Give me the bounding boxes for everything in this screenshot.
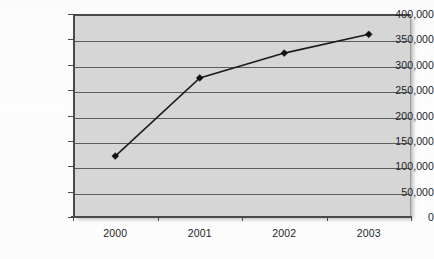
data-point-marker (365, 31, 372, 38)
data-series-group (73, 14, 411, 217)
x-axis-tick-label: 2003 (357, 227, 381, 239)
x-axis-tick-label: 2002 (272, 227, 296, 239)
line-chart-figure: 050,000100,000150,000200,000250,000300,0… (0, 0, 434, 259)
x-axis-tick-label: 2000 (103, 227, 127, 239)
series-markers (112, 31, 372, 160)
x-axis-tick-label: 2001 (188, 227, 212, 239)
data-point-marker (281, 50, 288, 57)
x-axis-tick-mark (411, 216, 412, 221)
series-line (115, 34, 368, 156)
